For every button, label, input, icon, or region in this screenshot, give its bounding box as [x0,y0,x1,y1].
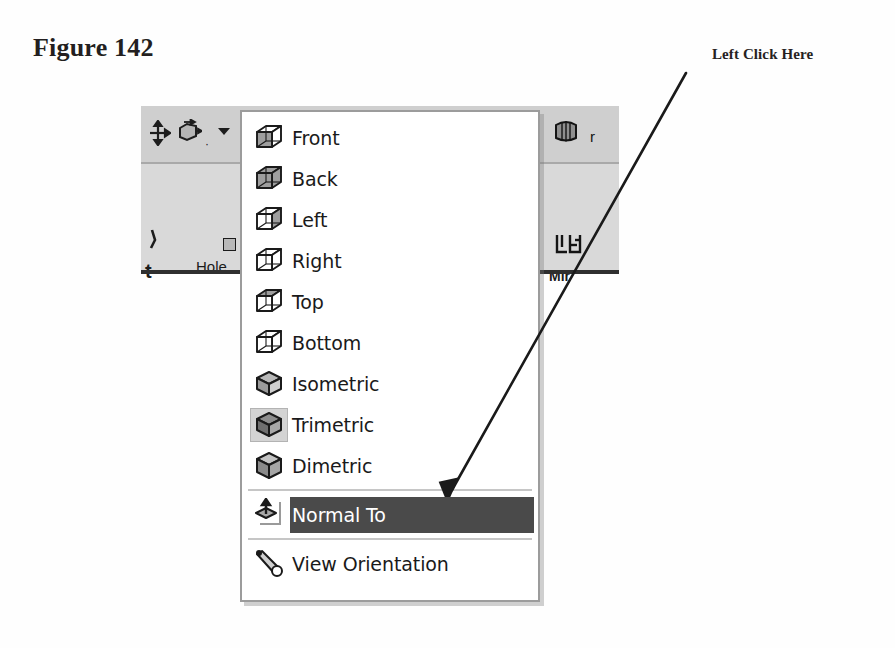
menu-item-label: Dimetric [288,455,372,477]
menu-item-label: Top [288,291,324,313]
menu-list: Front Back Left [242,112,538,584]
menu-item-label: Back [288,168,338,190]
menu-item-back[interactable]: Back [242,158,538,199]
menu-item-bottom[interactable]: Bottom [242,322,538,363]
rotate-view-icon[interactable] [175,119,202,145]
hole-wizard-badge-icon[interactable] [223,238,236,251]
menu-item-dimetric[interactable]: Dimetric [242,445,538,486]
cube-bottom-icon [250,326,288,360]
mirror-label: Mir [549,268,570,284]
cube-back-icon [250,162,288,196]
menu-separator [248,538,532,540]
cube-top-icon [250,285,288,319]
menu-item-label: View Orientation [288,553,449,575]
menu-item-label: Isometric [288,373,379,395]
callout-label: Left Click Here [712,46,813,63]
menu-item-top[interactable]: Top [242,281,538,322]
toolbar-separator-dot-icon: · [205,138,209,150]
menu-item-label: Right [288,250,342,272]
menu-separator [248,489,532,491]
cube-isometric-icon [250,367,288,401]
menu-item-trimetric[interactable]: Trimetric [242,404,538,445]
cube-right-icon [250,244,288,278]
menu-item-label: Trimetric [288,414,374,436]
cube-front-icon [250,121,288,155]
cube-left-icon [250,203,288,237]
menu-item-label: Front [288,127,340,149]
menu-item-front[interactable]: Front [242,117,538,158]
cube-dimetric-icon [250,449,288,483]
menu-item-label: Bottom [288,332,361,354]
menu-item-label: Normal To [288,504,386,526]
rib-icon[interactable] [551,118,581,146]
menu-item-left[interactable]: Left [242,199,538,240]
chevron-down-icon[interactable] [217,126,231,136]
hole-label: Hole [196,258,227,275]
menu-item-right[interactable]: Right [242,240,538,281]
cube-trimetric-icon [250,408,288,442]
mirror-icon[interactable] [553,232,583,262]
menu-item-label: Left [288,209,327,231]
view-orientation-menu[interactable]: Front Back Left [240,110,540,602]
menu-item-view-orientation[interactable]: View Orientation [242,543,538,584]
partial-tool-label: t [145,260,157,276]
scanned-page: Figure 142 Left Click Here [0,0,895,648]
move-four-arrows-icon[interactable] [145,120,171,146]
rib-label-fragment: r [590,128,595,145]
figure-caption: Figure 142 [33,33,154,63]
normal-to-icon [250,498,288,532]
menu-item-isometric[interactable]: Isometric [242,363,538,404]
menu-item-normal-to[interactable]: Normal To [242,494,538,535]
telescope-icon [250,547,288,581]
